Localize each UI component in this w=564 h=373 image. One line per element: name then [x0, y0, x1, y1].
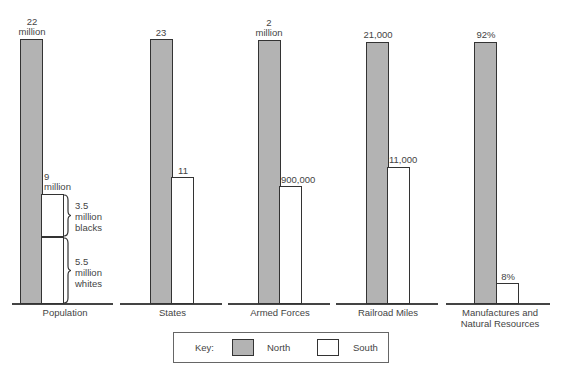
south-value-armed-forces: 900,000	[281, 175, 315, 185]
bar-south-population	[41, 194, 64, 304]
population-split-line	[41, 236, 64, 238]
chart-title-cutoff	[120, 0, 460, 5]
north-value-railroad: 21,000	[356, 30, 400, 40]
value-line: 92%	[470, 30, 502, 40]
brace-blacks	[63, 194, 71, 237]
legend-label-north: North	[267, 342, 290, 353]
value-line: million	[14, 27, 50, 37]
legend: Key: North South	[173, 332, 389, 363]
bar-north-states	[150, 39, 173, 304]
bar-north-manufactures	[474, 42, 497, 304]
value-line: 23	[145, 28, 177, 38]
category-label-states: States	[130, 307, 215, 318]
bar-north-armed-forces	[258, 40, 281, 304]
north-value-states: 23	[145, 28, 177, 38]
annotation-blacks: 3.5 million blacks	[75, 200, 102, 233]
category-label-manufactures: Manufactures and Natural Resources	[448, 307, 552, 329]
annotation-line: whites	[75, 278, 102, 289]
north-value-population: 22 million	[14, 17, 50, 37]
label-line: Manufactures and	[448, 307, 552, 318]
bar-south-manufactures	[496, 283, 519, 304]
value-line: 21,000	[356, 30, 400, 40]
value-line: 900,000	[281, 175, 315, 185]
value-line: million	[44, 182, 71, 192]
annotation-line: million	[75, 267, 102, 278]
south-value-population: 9 million	[44, 172, 71, 192]
category-label-railroad: Railroad Miles	[343, 307, 433, 318]
value-line: million	[252, 28, 286, 38]
south-value-states: 11	[172, 166, 194, 176]
annotation-line: million	[75, 211, 102, 222]
annotation-line: 3.5	[75, 200, 102, 211]
legend-swatch-north	[232, 339, 254, 356]
label-line: Natural Resources	[448, 318, 552, 329]
bar-north-railroad	[366, 42, 389, 304]
legend-swatch-south	[317, 339, 339, 356]
bar-north-population	[20, 39, 43, 304]
north-value-manufactures: 92%	[470, 30, 502, 40]
annotation-whites: 5.5 million whites	[75, 256, 102, 289]
south-value-manufactures: 8%	[497, 272, 519, 282]
bar-south-states	[171, 177, 194, 304]
bar-south-armed-forces	[279, 186, 302, 304]
value-line: 11,000	[389, 155, 417, 165]
legend-title: Key:	[195, 342, 214, 353]
category-label-armed-forces: Armed Forces	[235, 307, 325, 318]
annotation-line: blacks	[75, 222, 102, 233]
value-line: 11	[172, 166, 194, 176]
category-label-population: Population	[20, 307, 110, 318]
value-line: 8%	[497, 272, 519, 282]
bar-south-railroad	[387, 167, 410, 304]
brace-whites	[63, 237, 71, 304]
north-value-armed-forces: 2 million	[252, 18, 286, 38]
legend-label-south: South	[353, 342, 378, 353]
annotation-line: 5.5	[75, 256, 102, 267]
south-value-railroad: 11,000	[389, 155, 417, 165]
